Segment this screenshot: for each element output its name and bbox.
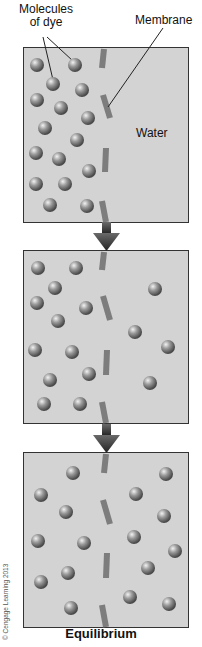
dye-molecule [75,83,89,97]
equilibrium-caption: Equilibrium [0,626,202,641]
dye-molecule [148,282,162,296]
dye-molecule [68,58,82,72]
dye-molecule [61,566,75,580]
dye-molecule [34,488,48,502]
dye-molecule [29,177,43,191]
dye-molecule [30,296,44,310]
dye-molecule [43,373,57,387]
dye-molecule [31,261,45,275]
dye-molecule [79,301,93,315]
dye-molecule [46,77,60,91]
dye-molecule [82,367,96,381]
dye-molecule [38,121,52,135]
dye-molecule [58,177,72,191]
dye-molecule [64,601,78,615]
dye-molecule [162,597,176,611]
dye-molecule [48,281,62,295]
dye-molecule [73,397,87,411]
arrow-down-icon [93,222,120,251]
arrow-down-icon [93,424,120,453]
diagram-overlay [0,0,202,647]
dye-molecule [157,509,171,523]
dye-molecule [82,164,96,178]
membrane-initial [102,49,110,222]
copyright-notice: © Cengage Learning 2013 [2,564,9,640]
dye-molecule [141,561,155,575]
dye-molecule [66,466,80,480]
dye-molecule [51,314,65,328]
dye-molecule [143,376,157,390]
dye-molecule [30,93,44,107]
dye-molecule [43,198,57,212]
membrane-equilibrium [102,454,110,627]
dye-molecule [161,340,175,354]
molecules [28,58,182,615]
dye-molecule [28,343,42,357]
dye-molecule [54,101,68,115]
dye-molecule [59,505,73,519]
dye-molecule [127,530,141,544]
dye-molecule [31,534,45,548]
dye-molecule [69,261,83,275]
dye-molecule [168,544,182,558]
dye-molecule [128,325,142,339]
dye-molecule [30,58,44,72]
dye-molecule [65,345,79,359]
dye-molecule [70,133,84,147]
dye-molecule [159,467,173,481]
dye-molecule [52,152,66,166]
membrane-diffusing [102,252,110,423]
dye-molecule [129,487,143,501]
dye-molecule [80,199,94,213]
dye-molecule [123,590,137,604]
dye-molecule [77,536,91,550]
dye-molecule [37,397,51,411]
dye-molecule [81,111,95,125]
dye-molecule [29,146,43,160]
dye-molecule [34,575,48,589]
